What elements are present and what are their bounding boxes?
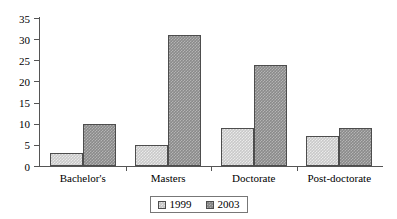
bar[interactable] [254, 65, 287, 166]
x-axis-category-label: Post-doctorate [297, 172, 383, 184]
legend-item-2003: 2003 [206, 199, 240, 210]
legend-label-2003: 2003 [218, 199, 240, 210]
bar[interactable] [339, 128, 372, 166]
bar-group [126, 18, 212, 166]
bar[interactable] [168, 35, 201, 166]
y-axis-tick-label: 30 [19, 34, 30, 45]
legend-label-1999: 1999 [170, 199, 192, 210]
bar-group [211, 18, 297, 166]
bar[interactable] [221, 128, 254, 166]
bar-group [297, 18, 383, 166]
y-axis-tick-label: 35 [19, 13, 30, 24]
y-axis-tick-label: 10 [19, 119, 30, 130]
legend-swatch-2003-icon [206, 201, 214, 209]
y-axis-tick-label: 5 [25, 140, 31, 151]
bar-group [40, 18, 126, 166]
y-axis-tick-label: 0 [25, 161, 31, 172]
y-axis-tick-label: 25 [19, 55, 30, 66]
x-axis-category-label: Doctorate [211, 172, 297, 184]
bar[interactable] [135, 145, 168, 166]
bar-chart: 05101520253035 Bachelor'sMastersDoctorat… [0, 0, 397, 219]
legend-item-1999: 1999 [158, 199, 192, 210]
y-axis-tick-label: 20 [19, 76, 30, 87]
bar[interactable] [83, 124, 116, 166]
x-axis-separator [211, 166, 212, 171]
chart-legend: 1999 2003 [150, 196, 248, 213]
x-axis-category-label: Masters [126, 172, 212, 184]
y-axis-tick-label: 15 [19, 98, 30, 109]
y-axis-tick: 0 [34, 166, 40, 167]
bar[interactable] [50, 153, 83, 166]
legend-swatch-1999-icon [158, 201, 166, 209]
x-axis-separator [297, 166, 298, 171]
x-axis-category-label: Bachelor's [40, 172, 126, 184]
x-axis-separator [126, 166, 127, 171]
bar[interactable] [306, 136, 339, 166]
